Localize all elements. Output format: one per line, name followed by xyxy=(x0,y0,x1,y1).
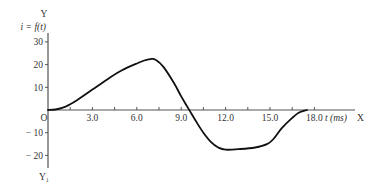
y-tick-label: 20 xyxy=(34,60,44,70)
y-tick-label: 30 xyxy=(34,37,44,47)
axes xyxy=(48,33,355,168)
x-tick-label: 9.0 xyxy=(175,113,187,123)
x-tick-label: 18.0 xyxy=(306,113,323,123)
y-axis-name: Y xyxy=(41,9,48,19)
x-tick-label: 3.0 xyxy=(86,113,98,123)
line-chart: 3.06.09.012.015.018.0302010− 10− 20OYi =… xyxy=(0,0,381,189)
x-axis-label: t (ms) xyxy=(325,113,347,124)
y-tick-label: 10 xyxy=(34,83,44,93)
y-axis-label: i = f(t) xyxy=(21,22,46,33)
y-tick-label: − 20 xyxy=(26,151,43,161)
y-tick-label: − 10 xyxy=(26,128,43,138)
x-axis-name: X xyxy=(357,113,364,123)
x-tick-label: 12.0 xyxy=(217,113,234,123)
x-tick-label: 15.0 xyxy=(262,113,279,123)
x-tick-label: 6.0 xyxy=(131,113,143,123)
data-line xyxy=(48,59,307,150)
y-negative-axis-name: Y₁ xyxy=(39,172,49,182)
origin-label: O xyxy=(41,113,48,123)
labels: 3.06.09.012.015.018.0302010− 10− 20OYi =… xyxy=(21,9,364,182)
